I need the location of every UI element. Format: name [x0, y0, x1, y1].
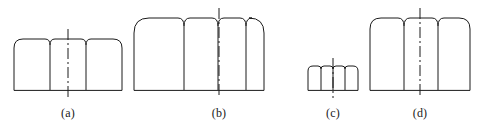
shape-b [134, 8, 264, 98]
shape-c [308, 58, 358, 98]
figure-container: (a)(b)(c)(d) [0, 0, 486, 132]
caption-a: (a) [28, 106, 108, 121]
shape-a [14, 29, 122, 98]
shapes-layer [14, 8, 470, 98]
shape-d [370, 8, 470, 98]
caption-d: (d) [380, 106, 460, 121]
caption-b: (b) [179, 106, 259, 121]
shape-outline-b [134, 18, 264, 90]
caption-c: (c) [293, 106, 373, 121]
